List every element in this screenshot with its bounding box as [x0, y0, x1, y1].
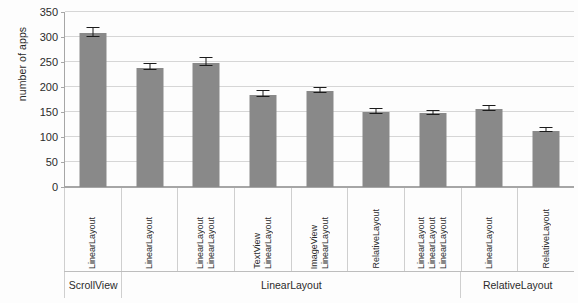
y-tick-label: 50	[46, 156, 58, 168]
category-label-cell: LinearLayout	[462, 188, 519, 271]
error-bar-cap-lower	[143, 69, 156, 70]
category-label-line: RelativeLayout	[371, 209, 382, 269]
category-label-band: LinearLayoutLinearLayoutLinearLayoutLine…	[64, 188, 574, 272]
y-axis-title: number of apps	[16, 0, 28, 134]
category-label-line: LinearLayout	[438, 217, 449, 269]
category-label-cell: TextViewLinearLayout	[235, 188, 292, 271]
bar-slot	[122, 12, 179, 187]
y-tick-label: 300	[40, 31, 58, 43]
bar-chart-figure: number of apps 050100150200250300350 Lin…	[0, 0, 578, 303]
bar-slot	[461, 12, 518, 187]
bar-slot	[518, 12, 575, 187]
bar-slot	[404, 12, 461, 187]
y-tick-label: 0	[52, 181, 58, 193]
bar	[306, 91, 333, 187]
category-label-cell: RelativeLayout	[348, 188, 405, 271]
category-label-cell: LinearLayoutLinearLayout	[178, 188, 235, 271]
category-label-line: LinearLayout	[195, 217, 206, 269]
category-label-line: LinearLayout	[87, 217, 98, 269]
error-bar-cap-upper	[313, 87, 326, 88]
bar	[476, 109, 503, 188]
bar-slot	[178, 12, 235, 187]
error-bar-cap-lower	[87, 36, 100, 37]
error-bar-cap-lower	[426, 114, 439, 115]
error-bar-cap-upper	[87, 27, 100, 28]
bar	[80, 33, 107, 187]
bar-slot	[348, 12, 405, 187]
category-label-cell: ImageViewLinearLayout	[292, 188, 349, 271]
bar-slot	[291, 12, 348, 187]
error-bar-cap-upper	[483, 105, 496, 106]
error-bar-cap-lower	[256, 96, 269, 97]
category-label-cell: LinearLayout	[64, 188, 122, 271]
plot-area: 050100150200250300350	[64, 12, 574, 188]
category-label-cell: LinearLayout	[122, 188, 179, 271]
error-bar-cap-lower	[313, 92, 326, 93]
error-bar-cap-upper	[539, 127, 552, 128]
error-bar-cap-upper	[143, 63, 156, 64]
error-bar-cap-lower	[483, 110, 496, 111]
category-label-cell: LinearLayoutLinearLayoutLinearLayout	[405, 188, 462, 271]
category-label-line: LinearLayout	[263, 217, 274, 269]
category-label-line: LinearLayout	[320, 217, 331, 269]
y-tick-label: 100	[40, 131, 58, 143]
error-bar-cap-lower	[200, 65, 213, 66]
category-label-line: RelativeLayout	[541, 209, 552, 269]
category-label-line: LinearLayout	[144, 217, 155, 269]
bar-slot	[235, 12, 292, 187]
y-tick-label: 250	[40, 56, 58, 68]
group-label: LinearLayout	[122, 272, 461, 298]
error-bar-cap-upper	[426, 110, 439, 111]
category-label-line: LinearLayout	[484, 217, 495, 269]
group-label: ScrollView	[64, 272, 122, 298]
y-tick-label: 150	[40, 106, 58, 118]
error-bar-cap-upper	[256, 90, 269, 91]
group-label: RelativeLayout	[461, 272, 574, 298]
category-label-line: TextView	[252, 233, 263, 269]
error-bar-cap-upper	[370, 108, 383, 109]
y-tick-label: 350	[40, 6, 58, 18]
category-label-line: LinearLayout	[416, 217, 427, 269]
category-label-line: LinearLayout	[206, 217, 217, 269]
error-bar-cap-lower	[370, 113, 383, 114]
bar	[363, 112, 390, 187]
y-tick-label: 200	[40, 81, 58, 93]
bar	[249, 95, 276, 188]
bar	[136, 68, 163, 187]
category-label-cell: RelativeLayout	[518, 188, 574, 271]
bar	[419, 113, 446, 187]
bar	[532, 131, 559, 188]
bar	[193, 63, 220, 188]
category-label-line: ImageView	[309, 225, 320, 269]
bar-slot	[65, 12, 122, 187]
bar-series	[65, 12, 574, 187]
category-label-line: LinearLayout	[427, 217, 438, 269]
error-bar-cap-lower	[539, 131, 552, 132]
error-bar-cap-upper	[200, 57, 213, 58]
group-label-band: ScrollViewLinearLayoutRelativeLayout	[64, 272, 574, 298]
